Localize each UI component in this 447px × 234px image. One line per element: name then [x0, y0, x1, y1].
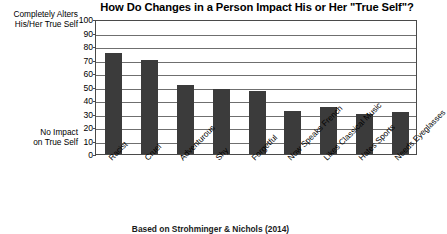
plot-area: [95, 20, 417, 155]
y-tick-label: 30: [67, 110, 93, 120]
y-tick-mark: [93, 20, 96, 21]
y-tick-label: 0: [67, 150, 93, 160]
x-axis-labels: RacistCruelAdventurousShyForgetfulNow Sp…: [95, 156, 421, 226]
y-tick-label: 40: [67, 96, 93, 106]
bar-series: [96, 21, 416, 154]
y-tick-mark: [93, 142, 96, 143]
y-tick-label: 90: [67, 29, 93, 39]
source-note: Based on Strohminger & Nichols (2014): [0, 224, 421, 234]
y-tick-label: 80: [67, 42, 93, 52]
y-tick-mark: [93, 88, 96, 89]
y-tick-label: 70: [67, 56, 93, 66]
y-tick-mark: [93, 155, 96, 156]
y-tick-label: 60: [67, 69, 93, 79]
y-axis: 0102030405060708090100: [64, 20, 93, 155]
chart-title: How Do Changes in a Person Impact His or…: [96, 1, 418, 13]
y-tick-mark: [93, 101, 96, 102]
y-tick-mark: [93, 61, 96, 62]
bar: [213, 89, 230, 154]
y-tick-mark: [93, 128, 96, 129]
y-tick-label: 20: [67, 123, 93, 133]
y-tick-mark: [93, 115, 96, 116]
bar: [105, 53, 122, 154]
y-tick-mark: [93, 47, 96, 48]
y-tick-mark: [93, 74, 96, 75]
bar: [141, 60, 158, 155]
y-tick-mark: [93, 34, 96, 35]
y-tick-label: 100: [67, 15, 93, 25]
y-tick-label: 50: [67, 83, 93, 93]
y-tick-label: 10: [67, 137, 93, 147]
